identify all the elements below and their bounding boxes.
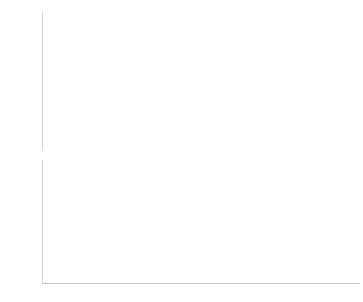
bar-plot-area xyxy=(42,160,361,283)
line-chart-panel xyxy=(0,0,363,155)
x-axis-line xyxy=(42,283,360,284)
y-axis-tick-labels-bottom xyxy=(12,155,40,302)
line-series-svg xyxy=(43,12,361,151)
chart-figure xyxy=(0,0,363,302)
line-plot-area xyxy=(42,12,361,151)
x-axis xyxy=(42,283,360,302)
y-axis-tick-labels-top xyxy=(12,0,40,155)
bar-chart-panel xyxy=(0,155,363,302)
